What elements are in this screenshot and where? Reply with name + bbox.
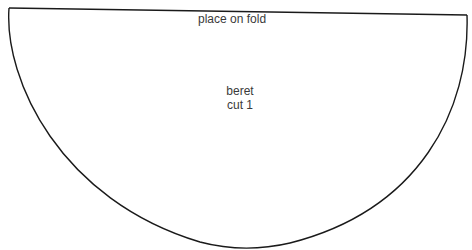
piece-name: beret — [220, 84, 260, 98]
cut-instruction: cut 1 — [218, 98, 262, 112]
curved-edge — [9, 8, 467, 248]
pattern-piece-outline — [0, 0, 472, 250]
fold-label: place on fold — [198, 12, 266, 26]
